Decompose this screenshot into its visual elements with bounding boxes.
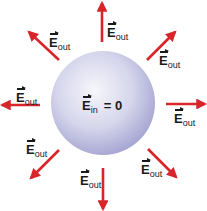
outside-field-label-right: Eout bbox=[174, 110, 195, 126]
outside-field-label-bottom-right: Eout bbox=[141, 161, 162, 177]
subscript-out: out bbox=[168, 60, 181, 70]
subscript-out: out bbox=[89, 180, 102, 190]
subscript-in: in bbox=[91, 105, 98, 115]
subscript-out: out bbox=[35, 149, 48, 159]
e-vector-symbol: E bbox=[49, 36, 58, 49]
outside-field-label-top-right: Eout bbox=[159, 52, 180, 68]
subscript-out: out bbox=[150, 169, 163, 179]
e-vector-symbol: E bbox=[82, 99, 91, 112]
subscript-out: out bbox=[116, 32, 129, 42]
outside-field-label-left: Eout bbox=[16, 89, 37, 105]
outside-field-label-bottom: Eout bbox=[80, 172, 101, 188]
e-vector-symbol: E bbox=[26, 143, 35, 156]
outside-field-label-top-left: Eout bbox=[49, 34, 70, 50]
e-vector-symbol: E bbox=[107, 26, 116, 39]
inside-field-label: Ein= 0 bbox=[82, 97, 122, 113]
e-vector-symbol: E bbox=[16, 91, 25, 104]
e-vector-symbol: E bbox=[159, 54, 168, 67]
e-vector-symbol: E bbox=[174, 112, 183, 125]
outside-field-label-top: Eout bbox=[107, 24, 128, 40]
outside-field-label-bottom-left: Eout bbox=[26, 141, 47, 157]
subscript-out: out bbox=[25, 97, 38, 107]
equals-zero: = 0 bbox=[104, 98, 122, 113]
subscript-out: out bbox=[183, 118, 196, 128]
e-vector-symbol: E bbox=[80, 174, 89, 187]
diagram-canvas: Ein= 0 EoutEoutEoutEoutEoutEoutEoutEout bbox=[0, 0, 207, 211]
e-vector-symbol: E bbox=[141, 163, 150, 176]
subscript-out: out bbox=[58, 42, 71, 52]
